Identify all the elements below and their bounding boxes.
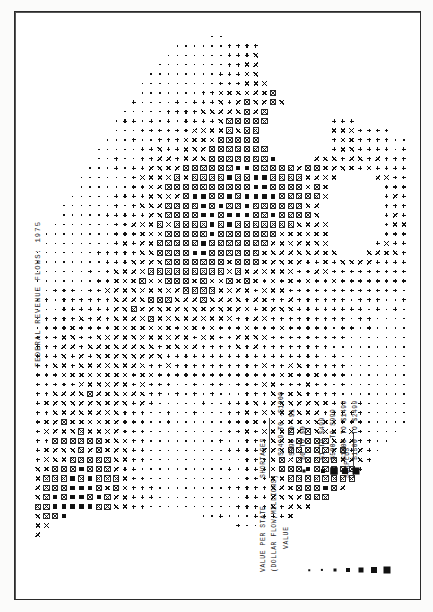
map-cell (123, 373, 127, 377)
map-cell (367, 260, 371, 264)
map-cell (395, 299, 396, 300)
map-cell (175, 269, 180, 274)
map-cell (236, 156, 241, 161)
map-cell (177, 45, 178, 46)
map-cell (236, 213, 240, 217)
map-cell (116, 186, 117, 187)
map-cell (150, 506, 151, 507)
map-cell (402, 251, 406, 255)
map-cell (140, 278, 145, 283)
map-cell (236, 128, 240, 132)
map-cell (140, 298, 144, 302)
map-cell (360, 356, 361, 357)
map-cell (228, 53, 232, 57)
map-cell (61, 476, 66, 481)
map-cell (175, 345, 179, 349)
map-cell (236, 298, 240, 302)
map-cell (97, 392, 101, 396)
map-cell (45, 383, 49, 387)
map-cell (332, 157, 336, 161)
map-cell (55, 243, 56, 244)
map-cell (297, 203, 302, 208)
map-cell (341, 166, 345, 170)
map-cell (288, 203, 293, 208)
map-cell (358, 260, 362, 264)
map-cell (192, 213, 197, 218)
map-cell (107, 186, 108, 187)
map-cell (323, 241, 327, 245)
map-cell (227, 203, 232, 208)
map-cell (97, 289, 101, 293)
map-cell (194, 73, 195, 74)
map-cell (168, 83, 169, 84)
map-cell (279, 203, 284, 208)
map-cell (227, 298, 231, 302)
map-cell (262, 251, 266, 255)
map-cell (262, 175, 266, 179)
map-cell (166, 297, 171, 302)
map-cell (385, 270, 389, 274)
map-cell (245, 307, 249, 311)
map-cell (36, 523, 40, 527)
map-cell (254, 194, 258, 198)
map-cell (236, 203, 241, 208)
map-cell (140, 260, 144, 264)
map-cell (131, 307, 136, 312)
map-cell (53, 448, 57, 452)
map-cell (210, 364, 214, 368)
map-cell (351, 318, 352, 319)
map-cell (97, 354, 101, 358)
map-cell (114, 476, 119, 481)
map-cell (351, 374, 352, 375)
map-cell (218, 260, 223, 265)
map-cell (132, 392, 136, 396)
map-cell (107, 167, 108, 168)
map-cell (45, 364, 49, 368)
legend-symbol-strip (303, 563, 399, 577)
map-cell (244, 137, 249, 142)
map-cell (149, 495, 153, 499)
map-cell (280, 345, 284, 349)
map-cell (228, 326, 232, 330)
map-cell (123, 317, 127, 321)
map-cell (53, 317, 57, 321)
map-cell (159, 421, 160, 422)
map-cell (132, 354, 136, 358)
map-cell (166, 231, 171, 236)
map-cell (53, 429, 57, 433)
map-cell (45, 298, 49, 302)
map-cell (220, 478, 221, 479)
map-cell (315, 307, 319, 311)
map-cell (211, 431, 212, 432)
map-cell (332, 147, 336, 151)
map-cell (238, 393, 239, 394)
map-cell (201, 138, 205, 142)
map-cell (88, 420, 92, 424)
map-cell (114, 354, 118, 358)
map-cell (253, 241, 258, 246)
map-cell (227, 175, 231, 179)
map-cell (244, 184, 249, 189)
map-cell (88, 317, 92, 321)
map-cell (219, 91, 223, 95)
map-cell (385, 185, 389, 189)
map-cell (46, 290, 47, 291)
map-cell (385, 260, 389, 264)
map-cell (358, 307, 362, 311)
map-cell (210, 260, 215, 265)
map-cell (220, 421, 221, 422)
map-cell (253, 128, 258, 133)
map-cell (244, 250, 249, 255)
map-cell (315, 269, 319, 273)
map-cell (193, 411, 197, 415)
map-cell (168, 459, 169, 460)
map-cell (351, 365, 352, 366)
map-cell (315, 157, 319, 161)
map-cell (124, 130, 125, 131)
map-cell (71, 289, 75, 293)
map-cell (184, 345, 188, 349)
map-cell (132, 251, 136, 255)
map-cell (280, 241, 284, 245)
map-cell (140, 251, 144, 255)
map-cell (201, 278, 206, 283)
